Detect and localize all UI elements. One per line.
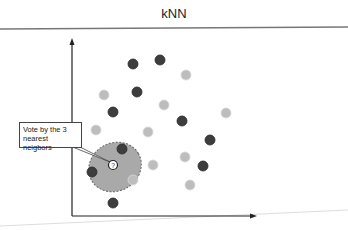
dark-point bbox=[132, 87, 142, 97]
dark-point bbox=[87, 167, 97, 177]
dark-point bbox=[198, 161, 208, 171]
dark-point bbox=[205, 135, 215, 145]
callout-line-2: nearest neigbors bbox=[23, 134, 78, 152]
light-point bbox=[148, 160, 158, 170]
bottom-edge-line bbox=[0, 210, 348, 226]
dark-point bbox=[108, 198, 118, 208]
dark-point bbox=[128, 59, 138, 69]
knn-diagram: ? bbox=[0, 0, 348, 230]
callout-box: Vote by the 3 nearest neigbors bbox=[19, 122, 82, 148]
light-point bbox=[181, 70, 191, 80]
callout-line-1: Vote by the 3 bbox=[23, 125, 78, 134]
light-point bbox=[128, 175, 138, 185]
light-point bbox=[91, 125, 101, 135]
light-point bbox=[180, 152, 190, 162]
light-point bbox=[159, 100, 169, 110]
light-point bbox=[99, 90, 109, 100]
dark-point bbox=[108, 107, 118, 117]
y-axis-arrow-icon bbox=[70, 38, 75, 45]
x-axis bbox=[72, 214, 257, 219]
light-point bbox=[143, 127, 153, 137]
dark-point bbox=[155, 55, 165, 65]
query-point: ? bbox=[109, 161, 118, 170]
dark-point bbox=[177, 116, 187, 126]
light-point bbox=[185, 180, 195, 190]
dark-point bbox=[117, 144, 127, 154]
light-point bbox=[221, 108, 231, 118]
query-label: ? bbox=[111, 162, 115, 169]
title-divider bbox=[0, 27, 348, 29]
